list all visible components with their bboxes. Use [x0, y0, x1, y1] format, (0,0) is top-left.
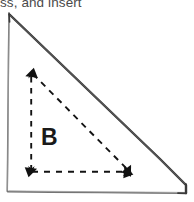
outer-triangle-top-apex: [9, 13, 10, 22]
triangle-figure: [0, 0, 194, 202]
figure-screenshot: ss, and insert: [0, 0, 194, 202]
outer-triangle-hypotenuse: [10, 15, 187, 194]
inner-triangle-hypotenuse: [33, 74, 127, 169]
outer-triangle-hypotenuse-texture: [10, 16, 185, 184]
inner-triangle-bottom-right-arrowhead: [123, 167, 132, 177]
outer-solid-triangle: [7, 13, 186, 193]
label-b: B: [41, 125, 58, 149]
